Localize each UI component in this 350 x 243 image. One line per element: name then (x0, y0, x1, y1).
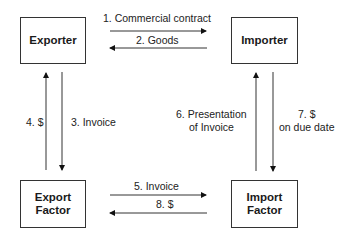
node-exporter: Exporter (20, 17, 86, 64)
edge-label-8: 8. $ (156, 198, 174, 211)
node-importer: Importer (231, 17, 298, 64)
edge-label-3: 3. Invoice (71, 116, 116, 129)
edge-label-7-line1: 7. $ (298, 108, 316, 121)
node-importer-label: Importer (241, 34, 288, 47)
edge-label-4: 4. $ (26, 116, 44, 129)
node-import-factor: Import Factor (231, 180, 298, 228)
edge-label-6-line2: of Invoice (189, 121, 234, 134)
edge-label-6-line1: 6. Presentation (176, 108, 247, 121)
edge-label-2: 2. Goods (136, 34, 179, 47)
node-export-factor-label: Export Factor (35, 191, 71, 217)
edge-label-5: 5. Invoice (134, 180, 179, 193)
node-import-factor-label: Import Factor (247, 191, 283, 217)
edge-label-7-line2: on due date (279, 121, 334, 134)
node-export-factor: Export Factor (20, 180, 86, 228)
node-exporter-label: Exporter (29, 34, 76, 47)
edge-label-1: 1. Commercial contract (103, 12, 211, 25)
